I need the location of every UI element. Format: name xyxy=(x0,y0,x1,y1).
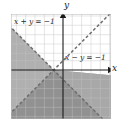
equation-label-x-plus-y: x + y = −1 xyxy=(14,18,55,26)
y-axis-label: y xyxy=(64,1,69,10)
coordinate-plane-svg xyxy=(11,14,111,119)
x-axis-label: x xyxy=(112,64,117,73)
equation-label-x-minus-y: x − y = −1 xyxy=(65,54,106,62)
graph-figure: y x x + y = −1 x − y = −1 xyxy=(0,0,121,127)
plot-area xyxy=(11,14,111,119)
